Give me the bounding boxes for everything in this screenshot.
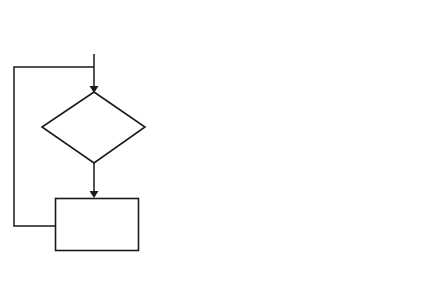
do-while-body-arrowhead-icon [90, 191, 99, 198]
do-while-diagram [14, 54, 145, 251]
do-while-decision-diamond [42, 92, 145, 163]
do-while-loop-body-box [56, 199, 139, 251]
flowchart-canvas [0, 0, 437, 297]
